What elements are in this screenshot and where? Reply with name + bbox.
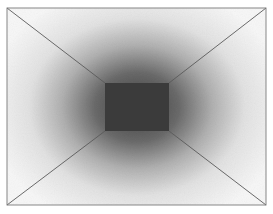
back-wall [105,83,169,131]
figure-stage [0,0,273,214]
perspective-box-figure [0,0,273,214]
